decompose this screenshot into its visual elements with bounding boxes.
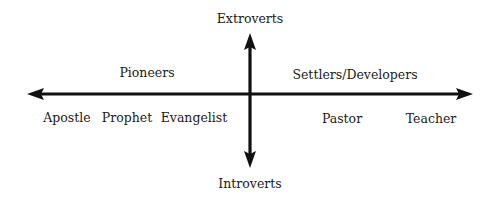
role-prophet: Prophet (102, 112, 152, 125)
introverts-label: Introverts (218, 178, 281, 191)
role-evangelist: Evangelist (161, 112, 228, 125)
role-pastor: Pastor (322, 113, 362, 126)
extroverts-label: Extroverts (217, 13, 284, 26)
role-teacher: Teacher (406, 113, 457, 126)
axes-graphic (0, 0, 497, 199)
role-apostle: Apostle (43, 112, 90, 125)
pioneers-label: Pioneers (119, 67, 174, 80)
settlers-developers-label: Settlers/Developers (292, 69, 417, 82)
